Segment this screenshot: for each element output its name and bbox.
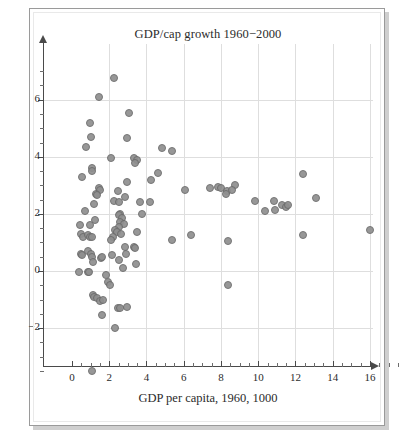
scatter-point — [187, 231, 195, 239]
scatter-point — [224, 237, 232, 245]
x-tick-major — [72, 361, 73, 367]
scatter-point — [95, 93, 103, 101]
scatter-point — [146, 198, 154, 206]
scatter-point — [122, 250, 130, 258]
y-tick-minor — [40, 85, 44, 86]
y-tick-minor — [40, 143, 44, 144]
x-tick-label: 2 — [96, 371, 122, 383]
scatter-point — [299, 231, 307, 239]
scatter-point — [138, 210, 146, 218]
figure-frame: GDP/cap growth 1960−2000 0246810121416−2… — [29, 8, 385, 426]
scatter-point — [90, 200, 98, 208]
gridline-horizontal — [43, 328, 373, 329]
scatter-point — [123, 134, 131, 142]
x-tick-label: 12 — [282, 371, 308, 383]
scatter-point — [131, 159, 139, 167]
scatter-point — [75, 268, 83, 276]
x-tick-minor — [137, 363, 138, 367]
x-tick-minor — [286, 363, 287, 367]
y-tick-label: 2 — [18, 206, 40, 218]
x-axis-title: GDP per capita, 1960, 1000 — [30, 391, 386, 406]
x-tick-minor — [202, 363, 203, 367]
y-tick-label: 6 — [18, 92, 40, 104]
x-tick-major — [221, 361, 222, 367]
x-tick-major — [333, 361, 334, 367]
scatter-point — [366, 226, 374, 234]
x-tick-label: 6 — [171, 371, 197, 383]
x-tick-major — [184, 361, 185, 367]
scatter-point — [107, 236, 115, 244]
y-tick-minor — [40, 114, 44, 115]
scatter-point — [87, 133, 95, 141]
scatter-point — [181, 186, 189, 194]
gridline-vertical — [109, 44, 110, 366]
scatter-point — [133, 228, 141, 236]
y-tick-label: −2 — [18, 320, 40, 332]
x-tick-minor — [389, 363, 390, 367]
scatter-point — [93, 191, 101, 199]
x-tick-minor — [323, 363, 324, 367]
scatter-point — [85, 268, 93, 276]
x-tick-minor — [351, 363, 352, 367]
x-tick-minor — [128, 363, 129, 367]
scatter-point — [284, 201, 292, 209]
y-axis-line — [43, 42, 44, 367]
gridline-horizontal — [43, 157, 373, 158]
scatter-point — [131, 244, 139, 252]
x-tick-minor — [277, 363, 278, 367]
y-tick-minor — [40, 257, 44, 258]
scatter-point — [136, 198, 144, 206]
scatter-point — [261, 207, 269, 215]
scatter-point — [76, 221, 84, 229]
x-tick-label: 16 — [357, 371, 383, 383]
x-tick-minor — [398, 363, 399, 367]
x-tick-label: 14 — [320, 371, 346, 383]
scatter-point — [125, 109, 133, 117]
gridline-vertical — [258, 44, 259, 366]
scatter-point — [88, 367, 96, 375]
scatter-point — [111, 324, 119, 332]
scatter-point — [99, 296, 107, 304]
x-tick-minor — [156, 363, 157, 367]
scatter-point — [98, 253, 106, 261]
x-tick-minor — [81, 363, 82, 367]
gridline-vertical — [295, 44, 296, 366]
scatter-point — [88, 167, 96, 175]
scatter-plot-area: 0246810121416−20246 — [30, 9, 386, 427]
scatter-point — [115, 198, 123, 206]
x-tick-label: 0 — [59, 371, 85, 383]
y-tick-minor — [40, 314, 44, 315]
x-tick-major — [258, 361, 259, 367]
y-tick-minor — [40, 300, 44, 301]
x-tick-minor — [379, 363, 380, 367]
scatter-point — [228, 186, 236, 194]
x-tick-minor — [193, 363, 194, 367]
y-tick-minor — [40, 242, 44, 243]
x-tick-minor — [342, 363, 343, 367]
x-tick-minor — [100, 363, 101, 367]
scatter-point — [154, 169, 162, 177]
y-tick-minor — [40, 200, 44, 201]
y-axis-arrow-icon — [39, 35, 47, 43]
gridline-horizontal — [43, 214, 373, 215]
scatter-point — [107, 154, 115, 162]
y-tick-minor — [40, 71, 44, 72]
gridline-vertical — [221, 44, 222, 366]
x-tick-major — [295, 361, 296, 367]
x-tick-label: 4 — [133, 371, 159, 383]
gridline-vertical — [333, 44, 334, 366]
x-tick-minor — [268, 363, 269, 367]
scatter-point — [110, 74, 118, 82]
y-tick-minor — [40, 171, 44, 172]
y-tick-label: 4 — [18, 149, 40, 161]
scatter-point — [88, 233, 96, 241]
x-tick-minor — [361, 363, 362, 367]
x-tick-minor — [119, 363, 120, 367]
scatter-point — [117, 230, 125, 238]
scatter-point — [123, 178, 131, 186]
y-tick-minor — [40, 371, 44, 372]
x-axis-arrow-icon — [371, 362, 379, 370]
x-tick-minor — [314, 363, 315, 367]
y-tick-minor — [40, 185, 44, 186]
scatter-point — [86, 119, 94, 127]
